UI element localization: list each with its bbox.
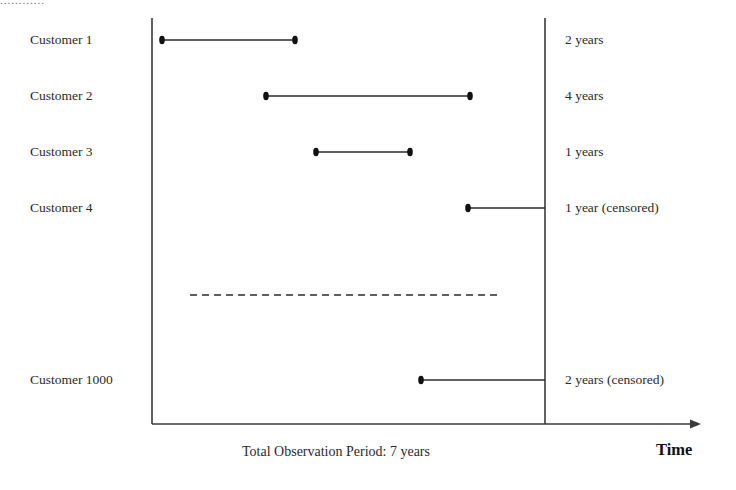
end-event-dot [407,148,413,156]
duration-label-customer-4: 1 year (censored) [565,201,659,215]
row-label-customer-1000: Customer 1000 [30,373,113,387]
lifetime-segments-group [159,36,545,384]
duration-label-customer-2: 4 years [565,89,604,103]
duration-label-customer-1: 2 years [565,33,604,47]
time-axis-label: Time [656,442,692,459]
lifetime-segment [159,36,298,44]
lifetime-segment [418,376,545,384]
lifetime-segment [313,148,413,156]
start-event-dot [263,92,269,100]
end-event-dot [292,36,298,44]
start-event-dot [313,148,319,156]
start-event-dot [465,204,471,212]
duration-label-customer-3: 1 years [565,145,604,159]
start-event-dot [159,36,165,44]
start-event-dot [418,376,424,384]
duration-label-customer-1000: 2 years (censored) [565,373,664,387]
row-label-ellipsis: ............ [0,0,736,6]
time-axis-arrowhead [690,420,701,429]
diagram-canvas [0,0,736,490]
lifetime-segment [263,92,473,100]
row-label-customer-3: Customer 3 [30,145,93,159]
censoring-diagram: Customer 1 Customer 2 Customer 3 Custome… [0,0,736,490]
lifetime-segment [465,204,545,212]
row-label-customer-1: Customer 1 [30,33,93,47]
row-label-customer-4: Customer 4 [30,201,93,215]
axes-group [152,18,701,429]
observation-period-caption: Total Observation Period: 7 years [242,445,430,459]
end-event-dot [467,92,473,100]
row-label-customer-2: Customer 2 [30,89,93,103]
